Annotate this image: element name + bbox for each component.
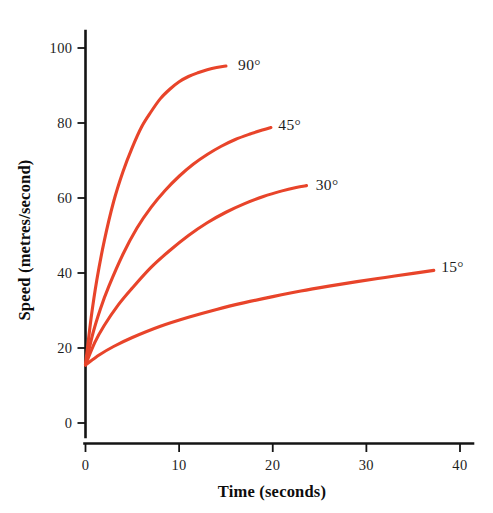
speed-time-line-chart: 020406080100 010203040 90°45°30°15° Time… <box>0 0 493 513</box>
y-axis-ticks: 020406080100 <box>50 40 86 431</box>
series-line-45deg <box>86 128 271 365</box>
x-axis-ticks: 010203040 <box>82 444 468 474</box>
y-tick-label: 0 <box>65 415 73 431</box>
x-axis-title: Time (seconds) <box>218 482 326 501</box>
y-tick-label: 100 <box>50 40 73 56</box>
x-tick-label: 30 <box>359 457 374 473</box>
y-tick-label: 40 <box>57 265 72 281</box>
y-tick-label: 20 <box>57 340 72 356</box>
series-line-15deg <box>86 270 434 365</box>
chart-container: 020406080100 010203040 90°45°30°15° Time… <box>0 0 493 513</box>
x-tick-label: 10 <box>171 457 186 473</box>
axes-group <box>85 31 474 444</box>
y-axis-title: Speed (metres/second) <box>15 159 34 320</box>
x-tick-label: 0 <box>82 457 90 473</box>
series-label-45deg: 45° <box>278 116 301 133</box>
x-tick-label: 40 <box>452 457 467 473</box>
series-label-90deg: 90° <box>238 56 261 73</box>
y-tick-label: 80 <box>57 115 72 131</box>
series-label-group: 90°45°30°15° <box>238 56 464 276</box>
series-label-15deg: 15° <box>441 258 464 275</box>
y-tick-label: 60 <box>57 190 72 206</box>
x-tick-label: 20 <box>265 457 280 473</box>
series-line-30deg <box>86 186 307 365</box>
series-label-30deg: 30° <box>316 176 339 193</box>
data-series-group <box>86 66 434 365</box>
